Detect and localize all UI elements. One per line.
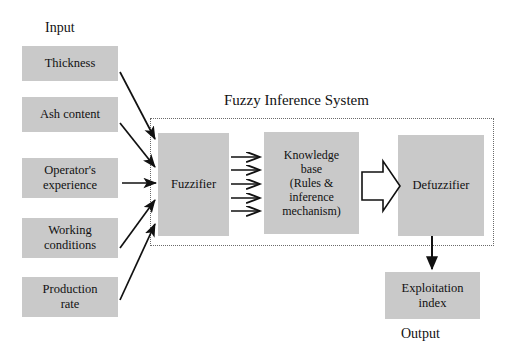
arrow-working-conditions-to-fuzzifier	[120, 200, 155, 248]
connector-layer	[0, 0, 518, 362]
fuzzy-inference-system-diagram: Fuzzy Inference System Input Output Thic…	[0, 0, 518, 362]
arrow-production-rate-to-fuzzifier	[120, 224, 155, 300]
block-arrow-knowledge-base-to-defuzzifier	[362, 161, 400, 211]
